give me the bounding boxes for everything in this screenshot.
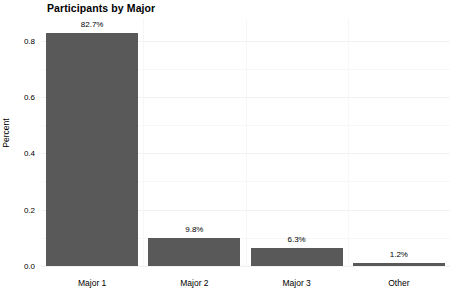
bar — [353, 263, 445, 266]
bar — [148, 238, 240, 266]
bar — [46, 33, 138, 266]
gridline-horizontal-major — [41, 266, 450, 267]
plot-area: 82.7%9.8%6.3%1.2% — [41, 18, 450, 266]
y-axis-tick-labels: 0.00.20.40.60.8 — [0, 18, 35, 266]
gridline-vertical — [348, 18, 349, 266]
bar-value-label: 1.2% — [348, 250, 450, 259]
bar-value-label: 6.3% — [246, 235, 348, 244]
y-axis-tick-label: 0.2 — [24, 205, 35, 214]
x-axis-tick-label: Major 1 — [78, 278, 106, 288]
y-axis-tick-label: 0.6 — [24, 92, 35, 101]
x-axis-tick-label: Major 2 — [180, 278, 208, 288]
y-axis-tick-label: 0.4 — [24, 149, 35, 158]
y-axis-tick-label: 0.8 — [24, 36, 35, 45]
bar-value-label: 9.8% — [143, 225, 245, 234]
bar — [251, 248, 343, 266]
bar-chart: Participants by Major Percent 0.00.20.40… — [0, 0, 464, 304]
gridline-vertical — [246, 18, 247, 266]
chart-title: Participants by Major — [47, 2, 155, 14]
bar-value-label: 82.7% — [41, 20, 143, 29]
x-axis-tick-label: Major 3 — [282, 278, 310, 288]
y-axis-tick-label: 0.0 — [24, 262, 35, 271]
x-axis-tick-label: Other — [388, 278, 409, 288]
x-axis-tick-labels: Major 1Major 2Major 3Other — [41, 278, 450, 298]
